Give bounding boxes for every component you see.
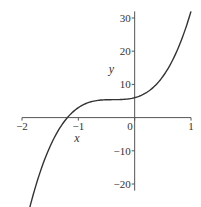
y-tick-label: 20 — [120, 45, 132, 57]
x-tick-label: −2 — [16, 120, 28, 132]
x-tick-label: 0 — [127, 120, 133, 132]
y-tick-label: −20 — [113, 178, 131, 190]
x-tick-labels: −2−101 — [16, 118, 194, 132]
y-tick-labels: −20−10102030 — [113, 12, 134, 190]
x-tick-label: 1 — [188, 120, 194, 132]
chart: −2−101 −20−10102030 x y — [0, 0, 201, 207]
y-axis-label: y — [108, 62, 115, 76]
x-axis-label: x — [73, 131, 80, 145]
y-tick-label: 10 — [120, 78, 132, 90]
data-line — [22, 11, 191, 207]
y-tick-label: −10 — [113, 145, 131, 157]
plot-area: −2−101 −20−10102030 x y — [0, 0, 201, 207]
y-tick-label: 30 — [120, 12, 132, 24]
